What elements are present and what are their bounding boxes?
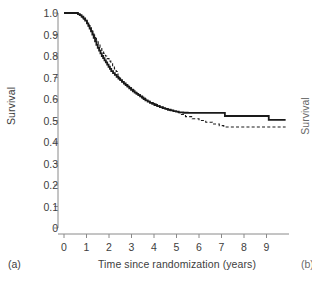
panel-b-clipped: Survival (b) — [292, 0, 312, 281]
x-tick-label: 5 — [167, 242, 187, 252]
y-tick-label: 0.9 — [24, 30, 58, 40]
y-tick-label: 1.0 — [24, 8, 58, 18]
x-axis-title: Time since randomization (years) — [64, 258, 290, 270]
panel-a: Survival 00.10.20.30.40.50.60.70.80.91.0… — [0, 0, 292, 281]
survival-curve-dashed — [64, 13, 286, 127]
y-tick-label: 0.4 — [24, 137, 58, 147]
y-tick-label: 0.6 — [24, 94, 58, 104]
survival-curve-solid — [64, 13, 286, 120]
x-tick-label: 2 — [99, 242, 119, 252]
x-tick-label: 9 — [257, 242, 277, 252]
x-tick-label: 0 — [54, 242, 74, 252]
x-tick-label: 6 — [189, 242, 209, 252]
panel-label-a: (a) — [8, 258, 21, 270]
y-tick-label: 0.7 — [24, 73, 58, 83]
y-tick-label: 0 — [24, 223, 58, 233]
panel-b-y-axis-title: Survival — [299, 81, 311, 151]
y-tick-label: 0.8 — [24, 51, 58, 61]
x-tick-label: 1 — [77, 242, 97, 252]
x-tick-label: 7 — [212, 242, 232, 252]
survival-figure: Survival 00.10.20.30.40.50.60.70.80.91.0… — [0, 0, 312, 281]
x-tick-label: 4 — [144, 242, 164, 252]
survival-curves — [64, 13, 286, 127]
panel-label-b: (b) — [301, 258, 312, 270]
y-tick-label: 0.3 — [24, 159, 58, 169]
y-tick-label: 0.1 — [24, 202, 58, 212]
x-tick-label: 3 — [122, 242, 142, 252]
x-tick-label: 8 — [234, 242, 254, 252]
axes — [54, 13, 289, 238]
y-tick-label: 0.5 — [24, 116, 58, 126]
y-tick-label: 0.2 — [24, 180, 58, 190]
y-axis-title: Survival — [5, 71, 17, 141]
